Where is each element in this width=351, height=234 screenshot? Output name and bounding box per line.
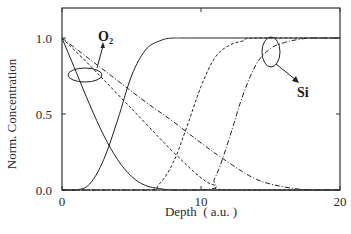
si-annotation: Si <box>262 37 309 100</box>
series-line-si-dashed <box>62 38 340 190</box>
si-arrow <box>276 64 296 80</box>
si-label: Si <box>297 85 309 100</box>
x-tick-label: 0 <box>59 194 66 209</box>
series-line-o2-dashed <box>62 38 340 190</box>
si-ellipse <box>262 37 280 67</box>
x-axis-title: Depth ( a.u. ) <box>165 204 237 219</box>
series-line-si-solid <box>62 38 340 190</box>
concentration-depth-chart: 0.00.51.001020 O₂ Si Depth ( a.u. ) Norm… <box>0 0 351 234</box>
x-tick-label: 20 <box>334 194 347 209</box>
y-tick-label: 0.0 <box>36 183 52 198</box>
series-line-o2-dash-dot <box>62 38 340 190</box>
o2-label: O₂ <box>98 29 113 44</box>
series-line-o2-solid <box>62 38 340 190</box>
series-line-si-dash-dot <box>62 38 340 190</box>
y-axis-title: Norm. Concentration <box>4 58 19 169</box>
plot-lines <box>62 38 340 190</box>
y-tick-label: 0.5 <box>36 107 52 122</box>
y-tick-label: 1.0 <box>36 31 52 46</box>
o2-annotation: O₂ <box>68 29 113 82</box>
o2-arrow <box>97 46 103 68</box>
o2-ellipse <box>68 68 102 82</box>
